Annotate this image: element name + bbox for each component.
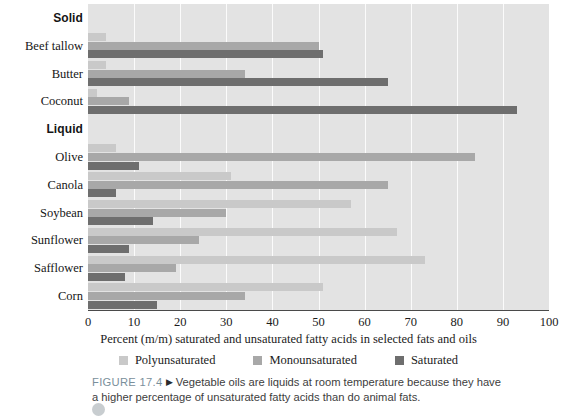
bar-sunflower-monounsaturated bbox=[88, 236, 199, 244]
category-label-olive: Olive bbox=[0, 150, 83, 165]
category-label-butter: Butter bbox=[0, 67, 83, 82]
category-label-corn: Corn bbox=[0, 289, 83, 304]
bar-olive-saturated bbox=[88, 162, 139, 170]
bar-safflower-monounsaturated bbox=[88, 264, 176, 272]
bar-beef-tallow-saturated bbox=[88, 50, 323, 58]
bar-olive-polyunsaturated bbox=[88, 144, 116, 152]
category-label-soybean: Soybean bbox=[0, 206, 83, 221]
bar-corn-polyunsaturated bbox=[88, 283, 323, 291]
bar-coconut-polyunsaturated bbox=[88, 89, 97, 97]
bar-canola-saturated bbox=[88, 189, 116, 197]
x-tick-label-60: 60 bbox=[358, 315, 371, 330]
bar-canola-polyunsaturated bbox=[88, 172, 231, 180]
group-label-liquid: Liquid bbox=[0, 122, 83, 136]
chart-plot-wrapper: SolidBeef tallowButterCoconutLiquidOlive… bbox=[0, 0, 577, 312]
x-tick-label-100: 100 bbox=[540, 315, 559, 330]
legend-swatch-saturated bbox=[395, 356, 404, 365]
legend-item-saturated: Saturated bbox=[395, 353, 458, 368]
bar-sunflower-polyunsaturated bbox=[88, 228, 397, 236]
bar-butter-polyunsaturated bbox=[88, 61, 106, 69]
caption-triangle-icon: ▶ bbox=[166, 377, 173, 387]
bar-butter-saturated bbox=[88, 78, 388, 86]
bar-canola-monounsaturated bbox=[88, 181, 388, 189]
bar-sunflower-saturated bbox=[88, 245, 129, 253]
category-label-sunflower: Sunflower bbox=[0, 233, 83, 248]
legend-item-polyunsaturated: Polyunsaturated bbox=[119, 353, 216, 368]
chart-legend: PolyunsaturatedMonounsaturatedSaturated bbox=[0, 351, 577, 369]
bar-beef-tallow-polyunsaturated bbox=[88, 33, 106, 41]
bar-coconut-monounsaturated bbox=[88, 97, 129, 105]
category-label-safflower: Safflower bbox=[0, 261, 83, 276]
x-tick-label-40: 40 bbox=[266, 315, 279, 330]
legend-swatch-monounsaturated bbox=[253, 356, 262, 365]
bar-safflower-saturated bbox=[88, 273, 125, 281]
bar-corn-monounsaturated bbox=[88, 292, 245, 300]
category-label-coconut: Coconut bbox=[0, 94, 83, 109]
legend-label-saturated: Saturated bbox=[411, 353, 458, 368]
category-label-canola: Canola bbox=[0, 178, 83, 193]
bar-soybean-saturated bbox=[88, 217, 153, 225]
caption-circle-badge bbox=[92, 403, 105, 416]
x-tick-label-70: 70 bbox=[404, 315, 417, 330]
x-tick-label-20: 20 bbox=[174, 315, 187, 330]
bar-soybean-monounsaturated bbox=[88, 209, 226, 217]
legend-swatch-polyunsaturated bbox=[119, 356, 128, 365]
x-tick-label-50: 50 bbox=[312, 315, 325, 330]
x-tick-label-0: 0 bbox=[85, 315, 91, 330]
bar-butter-monounsaturated bbox=[88, 70, 245, 78]
legend-label-monounsaturated: Monounsaturated bbox=[269, 353, 356, 368]
bar-safflower-polyunsaturated bbox=[88, 256, 425, 264]
x-axis-ticks: 0102030405060708090100 bbox=[0, 310, 577, 334]
figure-number: FIGURE 17.4 bbox=[92, 376, 162, 388]
x-tick-label-30: 30 bbox=[220, 315, 233, 330]
plot-area bbox=[88, 4, 549, 311]
bar-corn-saturated bbox=[88, 301, 157, 309]
bar-olive-monounsaturated bbox=[88, 153, 475, 161]
x-axis-title: Percent (m/m) saturated and unsaturated … bbox=[0, 332, 577, 347]
x-tick-label-80: 80 bbox=[451, 315, 464, 330]
gridline-90 bbox=[503, 4, 504, 310]
bar-beef-tallow-monounsaturated bbox=[88, 42, 319, 50]
x-tick-label-10: 10 bbox=[128, 315, 141, 330]
figure-caption: FIGURE 17.4 ▶ Vegetable oils are liquids… bbox=[92, 375, 510, 406]
x-tick-label-90: 90 bbox=[497, 315, 510, 330]
category-label-beef-tallow: Beef tallow bbox=[0, 39, 83, 54]
group-label-solid: Solid bbox=[0, 11, 83, 25]
legend-item-monounsaturated: Monounsaturated bbox=[253, 353, 356, 368]
bar-coconut-saturated bbox=[88, 106, 517, 114]
bar-soybean-polyunsaturated bbox=[88, 200, 351, 208]
legend-label-polyunsaturated: Polyunsaturated bbox=[135, 353, 216, 368]
